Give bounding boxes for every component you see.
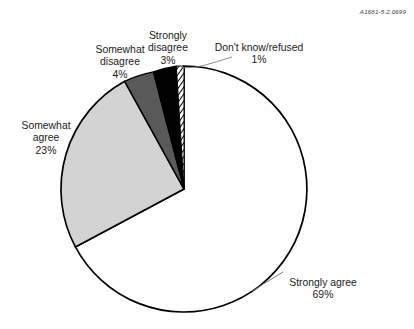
slice-label-line: agree xyxy=(8,132,84,144)
slice-label-somewhat-agree: Somewhat agree 23% xyxy=(8,120,84,157)
slice-value: 3% xyxy=(131,55,205,67)
slice-value: 1% xyxy=(196,54,322,66)
slice-label-line: Strongly xyxy=(131,30,205,42)
chart-canvas: A1681-5.2.0699 Somewhat disagree 4% Stro… xyxy=(0,0,414,329)
slice-label-strongly-agree: Strongly agree 69% xyxy=(268,277,378,302)
slice-label-strongly-disagree: Strongly disagree 3% xyxy=(131,30,205,67)
slice-value: 4% xyxy=(77,69,163,81)
slice-label-line: Don't know/refused xyxy=(196,42,322,54)
slice-value: 69% xyxy=(268,289,378,301)
slice-label-line: Strongly agree xyxy=(268,277,378,289)
slice-label-dont-know-refused: Don't know/refused 1% xyxy=(196,42,322,67)
slice-label-line: disagree xyxy=(131,42,205,54)
slice-value: 23% xyxy=(8,145,84,157)
slice-label-line: Somewhat xyxy=(8,120,84,132)
